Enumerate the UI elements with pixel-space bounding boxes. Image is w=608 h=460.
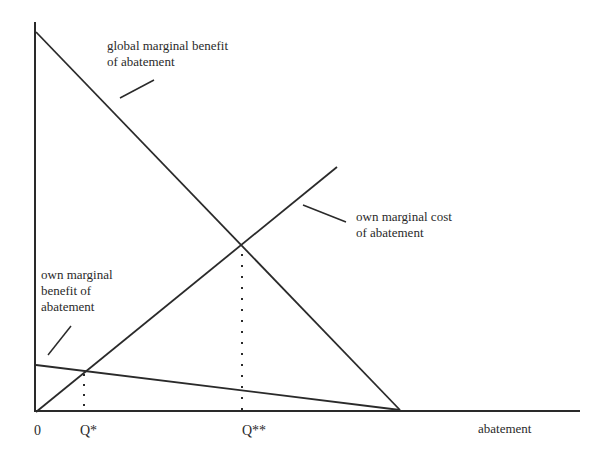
abatement-diagram: global marginal benefit of abatement own… bbox=[0, 0, 608, 460]
x-axis-label: abatement bbox=[478, 421, 531, 437]
own-mb-pointer bbox=[48, 326, 71, 355]
own-mb-label-line2: benefit of bbox=[41, 283, 113, 299]
own-mc-label-line1: own marginal cost bbox=[356, 209, 452, 225]
origin-label: 0 bbox=[34, 423, 41, 439]
diagram-graphics bbox=[0, 0, 608, 460]
global-mb-label-line2: of abatement bbox=[107, 54, 228, 70]
q-double-star-label: Q** bbox=[242, 423, 266, 439]
own-mc-label: own marginal cost of abatement bbox=[356, 209, 452, 241]
global-mb-label-line1: global marginal benefit bbox=[107, 38, 228, 54]
own-mc-label-line2: of abatement bbox=[356, 225, 452, 241]
own-mb-label-line3: abatement bbox=[41, 299, 113, 315]
own-mb-label: own marginal benefit of abatement bbox=[41, 267, 113, 315]
global-mb-pointer bbox=[120, 80, 154, 98]
global-mb-label: global marginal benefit of abatement bbox=[107, 38, 228, 70]
own-mb-label-line1: own marginal bbox=[41, 267, 113, 283]
q-star-label: Q* bbox=[80, 423, 97, 439]
own-mc-pointer bbox=[303, 205, 346, 222]
own-marginal-benefit-line bbox=[36, 365, 400, 410]
